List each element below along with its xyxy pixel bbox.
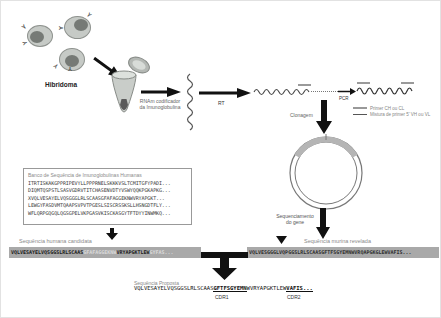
human-candidate-label: Sequência humana candidata [19, 238, 92, 244]
proposed-sequence: VQLVESAYELVQSGGSLRLSCAASGFTFSGYEMNWVRYAP… [134, 285, 313, 291]
database-sequence-line: XVQLVESAYELVQSGGGLRLSCAASGFAFAGGEKNWVRYA… [28, 195, 187, 202]
cdna-dotted-line [311, 91, 338, 92]
clonagem-label: Clonagem [290, 112, 313, 118]
legend-row: Mistura de primer 5' VH ou VL [353, 111, 430, 117]
pcr-label: PCR [339, 96, 349, 101]
proposed-cdr2-segment: VAFIS... [286, 285, 313, 292]
primer-legend: Primer CH ou CL Mistura de primer 5' VH … [353, 105, 430, 117]
legend-swatch-primer-vh-vl [353, 114, 367, 115]
proposed-cdr1-segment: GFTFSGYEMN [213, 285, 246, 292]
legend-swatch-primer-ch-cl [353, 107, 367, 109]
proposed-framework-2: WVRYAPGKTLEW [247, 285, 287, 291]
legend-label: Mistura de primer 5' VH ou VL [370, 112, 430, 117]
murine-revealed-sequence-bar: VQLVESGGGLVQPGGSLRLSCAASGFTFSGYEMNWVRQAP… [247, 247, 439, 258]
antibody-icon: Y [22, 40, 29, 46]
pcr-product-squiggle-icon [356, 86, 418, 96]
database-sequence-line: DIQMTQSPSTLSASVGDRVTITCHASENVDTYVSWYQQKP… [28, 187, 187, 194]
cdna-squiggle-icon [253, 87, 313, 97]
primer-mark-icon [357, 82, 370, 84]
rna-label-line2: da Imunoglobulina [133, 105, 187, 111]
database-sequence-line: LEWGYFASDVMTQAAPSVPVTPGESLSISCRSSKSLLHSN… [28, 202, 187, 209]
mrna-squiggle-icon [184, 73, 196, 131]
sequence-segment-framework: VRYAPGKTLEW [116, 249, 149, 255]
proposed-framework-1: VQLVESAYELVQSGGSLRLSCAAS [134, 285, 213, 291]
database-title: Banco de Sequência de Imunoglobulinas Hu… [28, 172, 187, 178]
sequencing-label-line2: do gene [274, 219, 316, 225]
arrow-merge-down-icon [212, 258, 237, 280]
sequencing-label: Sequenciamento do gene [274, 213, 316, 225]
arrow-pcr-icon [338, 87, 356, 96]
database-sequence-line: ITRTISKAKGPPRIPEVYLLPPPRNELSKKKVSLTCMITG… [28, 180, 187, 187]
arrow-to-murine-bar-icon [276, 236, 287, 244]
sequence-segment-cdr: GYFAS... [150, 249, 174, 255]
hybridoma-cell-icon: Y Y [27, 25, 53, 47]
arrow-database-to-candidate-icon [106, 228, 118, 240]
hybridoma-cell-icon: Y Y [59, 48, 85, 71]
primer-mark-icon [401, 82, 414, 84]
human-ig-database-box: Banco de Sequência de Imunoglobulinas Hu… [23, 168, 192, 225]
arrow-rt-icon [199, 87, 251, 99]
arrow-tube-to-rna-icon [141, 86, 181, 98]
cell-nucleus-icon [74, 19, 88, 31]
cdr1-label: CDR1 [215, 294, 229, 300]
antibody-icon: Y [52, 62, 59, 69]
humanization-diagram: Y Y Y Y Y Y Hibridoma RNAm codificador [0, 0, 441, 318]
rna-label: RNAm codificador da Imunoglobulina [133, 99, 187, 110]
sequence-segment-framework: VQLVESAYELVQSGGSLRLSCAAS [11, 249, 83, 255]
antibody-icon: Y [85, 11, 92, 18]
legend-label: Primer CH ou CL [370, 106, 404, 111]
arrow-sequencing-icon [316, 208, 330, 239]
sequence-segment-cdr: GFAFAGGEKNW [83, 249, 116, 255]
murine-revealed-label: Sequência murina revelada [304, 238, 371, 244]
antibody-icon: Y [20, 23, 27, 30]
primer-mark-icon [298, 84, 311, 86]
antibody-icon: Y [68, 66, 72, 72]
database-sequence-line: WFLQRPGQGQLQGSGPELVKPGASVKISCKASGYTFTDYY… [28, 210, 187, 217]
antibody-icon: Y [58, 26, 64, 30]
plasmid-icon [283, 133, 369, 211]
hibridoma-label: Hibridoma [45, 81, 77, 88]
cell-nucleus-icon [30, 31, 44, 43]
hybridoma-cell-icon: Y Y [64, 16, 91, 39]
arrow-clonagem-icon [316, 100, 332, 134]
cdr2-label: CDR2 [287, 294, 301, 300]
rt-label: RT [218, 100, 225, 106]
human-candidate-sequence-bar: VQLVESAYELVQSGGSLRLSCAASGFAFAGGEKNWVRYAP… [9, 247, 201, 258]
